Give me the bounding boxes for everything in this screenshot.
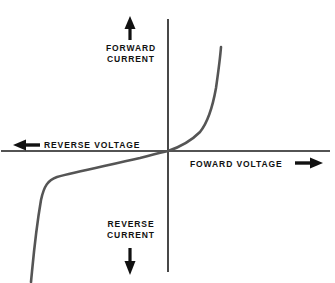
forward-current-label-line2: CURRENT [86,54,176,65]
arrow-right-icon [295,158,323,169]
arrow-down-icon [125,248,136,275]
forward-voltage-label: FOWARD VOLTAGE [190,159,283,170]
forward-current-label-line1: FORWARD [86,43,176,54]
arrow-left-icon [13,140,40,151]
reverse-current-label-line1: REVERSE [86,219,176,230]
diode-iv-characteristic-diagram: FORWARD CURRENT REVERSE CURRENT REVERSE … [0,0,335,283]
reverse-voltage-label: REVERSE VOLTAGE [44,140,140,151]
arrow-up-icon [125,16,136,40]
reverse-current-label-line2: CURRENT [86,230,176,241]
reverse-current-label: REVERSE CURRENT [86,219,176,241]
forward-current-label: FORWARD CURRENT [86,43,176,65]
